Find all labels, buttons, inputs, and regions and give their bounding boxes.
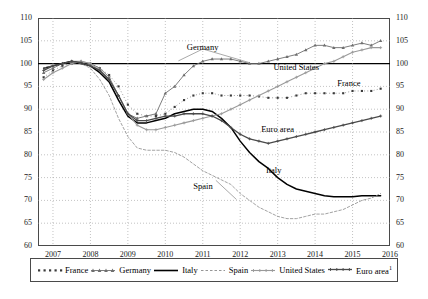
legend-label: Germany [119,266,151,275]
chart-container: 6065707580859095100105110 60657075808590… [0,0,428,299]
legend-label: United States [279,266,325,275]
legend-item-euro-area[interactable]: Euro area1 [327,264,392,276]
annotation-spain: Spain [193,182,212,191]
legend-label: Euro area1 [356,264,392,276]
legend-superscript: 1 [389,265,392,271]
annotation-france: France [337,79,360,88]
annotation-italy: Italy [266,166,282,175]
legend-label: France [65,266,88,275]
legend-swatch-triangle-line-icon [90,266,116,275]
legend-swatch-gray-cross-line-icon [250,266,276,275]
legend-swatch-square-dotted-icon [36,266,62,275]
legend-item-germany[interactable]: Germany [90,266,151,275]
annotation-germany: Germany [187,43,219,52]
legend-item-italy[interactable]: Italy [153,266,198,275]
legend-swatch-solid-black-line-icon [153,266,179,275]
legend-item-united-states[interactable]: United States [250,266,325,275]
legend-label: Spain [229,266,248,275]
legend-label: Italy [182,266,198,275]
annotation-euro-area: Euro area [261,125,294,134]
legend-item-france[interactable]: France [36,266,88,275]
annotation-united-states: United States [273,63,319,72]
legend: FranceGermanyItalySpainUnited StatesEuro… [30,258,398,282]
legend-swatch-dark-cross-line-icon [327,265,353,274]
legend-item-spain[interactable]: Spain [200,266,248,275]
legend-swatch-dashed-line-icon [200,266,226,275]
